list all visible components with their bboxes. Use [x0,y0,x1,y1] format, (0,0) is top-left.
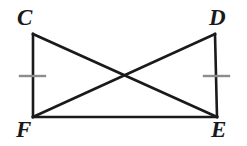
vertex-label-e: E [211,118,226,141]
vertex-label-d: D [209,6,226,29]
vertex-label-c: C [17,6,32,29]
vertex-label-f: F [16,118,31,141]
geometry-figure: C D F E [0,0,247,146]
